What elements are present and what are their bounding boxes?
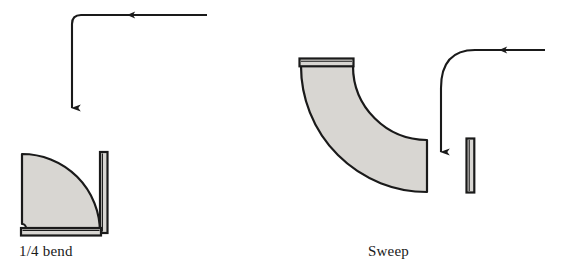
sweep-top-flange bbox=[300, 59, 354, 67]
sharp-right-angle-flow-arrow bbox=[72, 15, 207, 108]
quarter-bend-top-flange bbox=[100, 152, 108, 233]
sweep-fitting bbox=[262, 59, 474, 232]
sweep-label: Sweep bbox=[368, 243, 409, 260]
quarter-bend-label: 1/4 bend bbox=[19, 243, 73, 260]
sweep-body bbox=[301, 66, 427, 192]
gradual-arrow-curve-segment bbox=[441, 50, 500, 152]
quarter-bend-fitting bbox=[21, 152, 108, 236]
diagram-canvas bbox=[0, 0, 583, 279]
sharp-arrow-corner-segment bbox=[72, 15, 128, 108]
sweep-right-flange bbox=[467, 139, 475, 193]
quarter-bend-bottom-flange bbox=[21, 228, 101, 236]
quarter-bend-top-flange-band bbox=[100, 152, 108, 233]
sweep-top-flange-band bbox=[300, 59, 354, 67]
gradual-curve-flow-arrow bbox=[441, 50, 545, 152]
sweep-right-flange-band bbox=[467, 139, 475, 193]
quarter-bend-body bbox=[22, 154, 100, 232]
quarter-bend-bottom-flange-band bbox=[21, 228, 101, 236]
pipe-fitting-comparison-figure: 1/4 bend Sweep bbox=[0, 0, 583, 279]
